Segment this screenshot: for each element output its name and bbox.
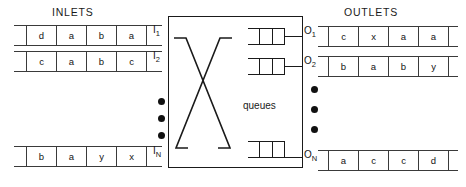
inlet-port-index: N xyxy=(156,150,161,159)
outlet-port-label-n: ON xyxy=(304,150,317,163)
inlet-port-index: 1 xyxy=(156,29,160,38)
outlet-tape-1: c x a a xyxy=(318,26,458,47)
inlet-2-cells: c a b c xyxy=(26,52,146,71)
outlet-cell: a xyxy=(388,27,419,46)
output-queue-2 xyxy=(248,58,285,75)
inlet-cell: b xyxy=(26,147,57,166)
queue-slot xyxy=(260,142,272,157)
outlet-port-index: 1 xyxy=(312,30,316,39)
outlet-port-label-2: O2 xyxy=(304,56,316,69)
tape-rail-bottom xyxy=(318,46,458,47)
tape-rail-bottom xyxy=(14,166,162,167)
inlet-cell: a xyxy=(56,26,87,45)
inlet-port-label-n: IN xyxy=(153,146,161,159)
inlet-ellipsis-dot xyxy=(158,115,165,122)
inlet-cell: x xyxy=(116,147,147,166)
inlet-tape-n: b a y x xyxy=(14,146,162,167)
outlet-2-cells: b a b y xyxy=(328,57,448,76)
queue-slot xyxy=(260,29,272,44)
inlet-cell: d xyxy=(26,26,57,45)
outlet-tape-n: a c c d xyxy=(318,150,458,171)
inlet-port-label-1: I1 xyxy=(153,25,160,38)
inlet-port-index: 2 xyxy=(156,55,160,64)
outlet-ellipsis-dot xyxy=(311,126,318,133)
queue-slot xyxy=(273,59,284,74)
tape-rail-bottom xyxy=(318,170,458,171)
queue-feed-line-n xyxy=(285,157,303,158)
output-queue-1 xyxy=(248,28,285,45)
queue-slot xyxy=(260,59,272,74)
inlet-port-label-2: I2 xyxy=(153,51,160,64)
inlet-cell: y xyxy=(86,147,117,166)
outlet-port-letter: O xyxy=(304,149,312,160)
queue-feed-line-2 xyxy=(285,66,303,67)
outlet-cell: c xyxy=(328,27,359,46)
inlet-tape-2: c a b c xyxy=(14,51,162,72)
queue-slot xyxy=(248,142,260,157)
inlet-cell: a xyxy=(56,52,87,71)
tape-rail-bottom xyxy=(14,71,162,72)
outlet-cell: x xyxy=(358,27,389,46)
outlet-port-label-1: O1 xyxy=(304,26,316,39)
inlet-cell: b xyxy=(86,52,117,71)
outlet-cell: a xyxy=(418,27,449,46)
queues-label: queues xyxy=(243,100,276,111)
outlet-ellipsis-dot xyxy=(311,106,318,113)
outlet-cell: a xyxy=(358,57,389,76)
inlet-cell: b xyxy=(86,26,117,45)
inlet-n-cells: b a y x xyxy=(26,147,146,166)
outlet-port-letter: O xyxy=(304,55,312,66)
tape-rail-bottom xyxy=(318,76,458,77)
outlet-n-cells: a c c d xyxy=(328,151,448,170)
queue-slot xyxy=(273,142,284,157)
queue-slot xyxy=(248,59,260,74)
inlet-ellipsis-dot xyxy=(158,98,165,105)
outlet-port-index: N xyxy=(312,154,317,163)
inlet-cell: c xyxy=(116,52,147,71)
outlet-port-letter: O xyxy=(304,25,312,36)
queue-slot xyxy=(248,29,260,44)
inlet-cell: a xyxy=(116,26,147,45)
outlet-ellipsis-dot xyxy=(311,86,318,93)
outlet-1-cells: c x a a xyxy=(328,27,448,46)
inlet-ellipsis-dot xyxy=(158,132,165,139)
inlet-cell: c xyxy=(26,52,57,71)
outlet-cell: a xyxy=(328,151,359,170)
inlets-heading: INLETS xyxy=(52,6,94,18)
outlet-port-index: 2 xyxy=(312,60,316,69)
inlet-tape-1: d a b a xyxy=(14,25,162,46)
inlet-1-cells: d a b a xyxy=(26,26,146,45)
outlet-cell: c xyxy=(358,151,389,170)
crossbar-x-icon xyxy=(172,26,234,160)
output-queue-n xyxy=(248,141,285,158)
queue-feed-line-1 xyxy=(285,36,303,37)
outlet-tape-2: b a b y xyxy=(318,56,458,77)
tape-rail-bottom xyxy=(14,45,162,46)
queue-slot xyxy=(273,29,284,44)
outlet-cell: b xyxy=(328,57,359,76)
switch-architecture-diagram: INLETS OUTLETS d a b a I1 c a b c I2 b a xyxy=(0,0,466,187)
outlet-cell: c xyxy=(388,151,419,170)
outlet-cell: d xyxy=(418,151,449,170)
outlets-heading: OUTLETS xyxy=(344,6,398,18)
outlet-cell: y xyxy=(418,57,449,76)
outlet-cell: b xyxy=(388,57,419,76)
inlet-cell: a xyxy=(56,147,87,166)
